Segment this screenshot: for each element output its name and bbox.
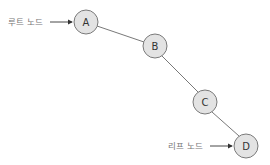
- root-node-label: 루트 노드: [8, 17, 43, 27]
- node-b: B: [143, 34, 167, 58]
- node-d: D: [234, 134, 258, 158]
- node-a: A: [74, 10, 98, 34]
- node-d-label: D: [242, 141, 250, 152]
- leaf-node-label: 리프 노드: [168, 141, 203, 151]
- node-a-label: A: [83, 17, 90, 28]
- edge-c-d: [212, 112, 239, 136]
- node-b-label: B: [152, 41, 159, 52]
- edge-b-c: [162, 56, 198, 92]
- edge-a-b: [97, 26, 144, 42]
- tree-diagram: 루트 노드 리프 노드 A B C D: [0, 0, 270, 165]
- node-c: C: [193, 90, 217, 114]
- node-c-label: C: [202, 97, 209, 108]
